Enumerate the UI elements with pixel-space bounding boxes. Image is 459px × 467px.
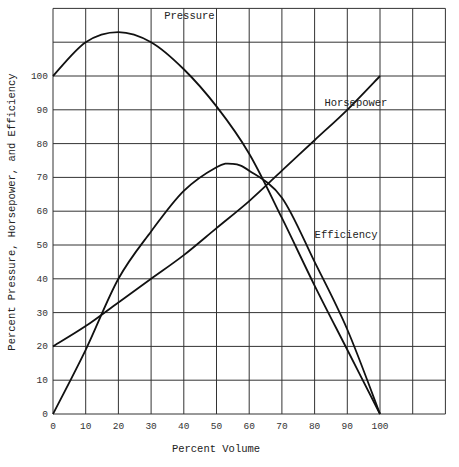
x-tick-label: 0 bbox=[50, 421, 56, 432]
y-tick-label: 10 bbox=[37, 375, 49, 386]
efficiency-label: Efficiency bbox=[315, 229, 378, 241]
x-tick-label: 90 bbox=[342, 421, 354, 432]
horsepower-label: Horsepower bbox=[324, 97, 387, 109]
x-tick-label: 30 bbox=[145, 421, 157, 432]
y-tick-label: 100 bbox=[31, 71, 48, 82]
pressure-label: Pressure bbox=[164, 10, 214, 22]
y-tick-label: 80 bbox=[37, 139, 49, 150]
x-tick-label: 20 bbox=[113, 421, 125, 432]
x-tick-label: 40 bbox=[178, 421, 190, 432]
y-tick-label: 60 bbox=[37, 206, 49, 217]
grid-lines bbox=[53, 8, 445, 414]
y-axis-label: Percent Pressure, Horsepower, and Effici… bbox=[6, 73, 18, 350]
x-tick-label: 60 bbox=[243, 421, 255, 432]
y-axis-ticks: 0102030405060708090100 bbox=[31, 71, 48, 420]
y-tick-label: 40 bbox=[37, 274, 49, 285]
x-axis-ticks: 0102030405060708090100 bbox=[50, 421, 389, 432]
y-tick-label: 70 bbox=[37, 172, 49, 183]
x-axis-label: Percent Volume bbox=[172, 443, 260, 455]
y-tick-label: 0 bbox=[42, 409, 48, 420]
y-tick-label: 50 bbox=[37, 240, 49, 251]
x-tick-label: 70 bbox=[276, 421, 288, 432]
y-tick-label: 90 bbox=[37, 105, 49, 116]
x-tick-label: 80 bbox=[309, 421, 321, 432]
x-tick-label: 10 bbox=[80, 421, 92, 432]
x-tick-label: 50 bbox=[211, 421, 223, 432]
y-tick-label: 30 bbox=[37, 308, 49, 319]
performance-chart: 0102030405060708090100 01020304050607080… bbox=[0, 0, 459, 467]
x-tick-label: 100 bbox=[371, 421, 388, 432]
y-tick-label: 20 bbox=[37, 341, 49, 352]
